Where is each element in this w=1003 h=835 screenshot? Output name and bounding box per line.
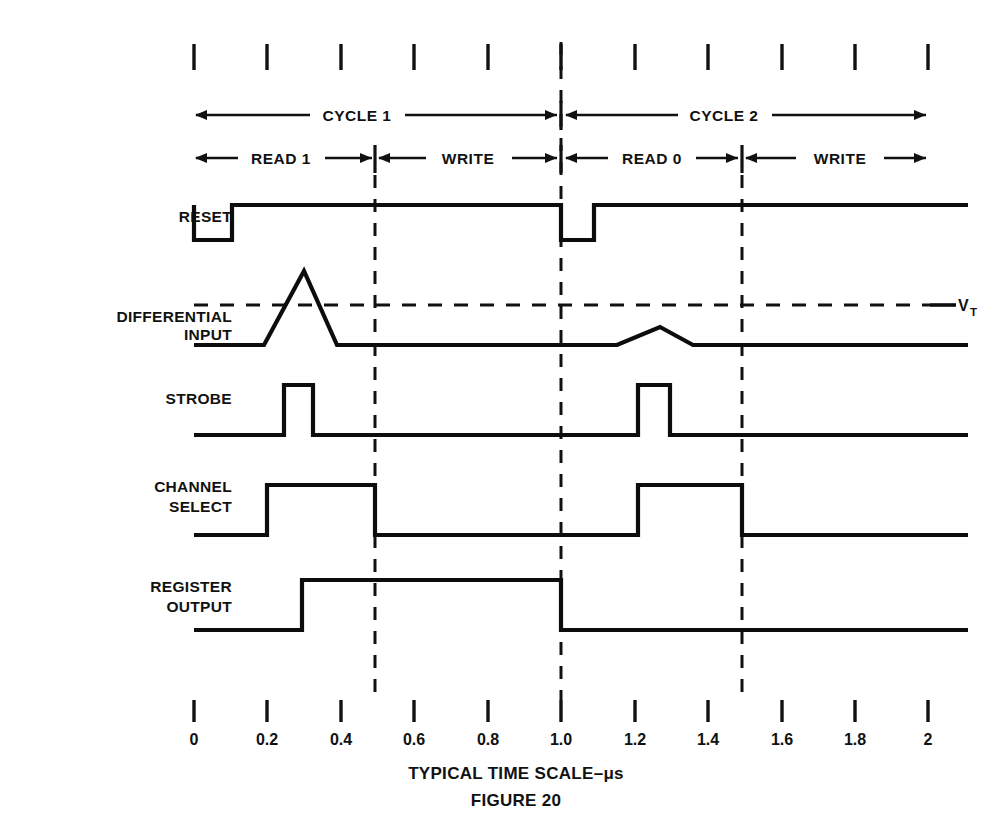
axis-tick-label-8: 1.6: [771, 731, 793, 748]
signal-label-output: OUTPUT: [166, 598, 232, 615]
axis-tick-label-1: 0.2: [256, 731, 278, 748]
phase-read-1-label: READ 1: [251, 150, 311, 167]
vertical-gridlines: [375, 42, 742, 700]
axis-tick-label-0: 0: [190, 731, 199, 748]
signal-label-channel: CHANNEL: [154, 478, 232, 495]
signal-label-reset: RESET: [179, 208, 232, 225]
timing-diagram-canvas: CYCLE 1 CYCLE 2 READ 1 WRITE READ 0: [0, 0, 1003, 835]
phase-write-2-label: WRITE: [814, 150, 866, 167]
cycle-1-label: CYCLE 1: [323, 107, 392, 124]
signal-label-differential: DIFFERENTIAL: [116, 308, 232, 325]
axis-tick-label-3: 0.6: [403, 731, 425, 748]
figure-caption: FIGURE 20: [471, 791, 562, 810]
phase-read-0-label: READ 0: [622, 150, 682, 167]
axis-title: TYPICAL TIME SCALE–μs: [408, 764, 624, 783]
signal-row-reset: RESET: [179, 205, 968, 240]
waveform-reset: [194, 205, 968, 240]
signal-row-differential-input: DIFFERENTIAL INPUT V T: [116, 271, 977, 345]
axis-tick-label-4: 0.8: [477, 731, 499, 748]
cycle-2-label: CYCLE 2: [690, 107, 759, 124]
axis-tick-label-7: 1.4: [697, 731, 719, 748]
axis-tick-label-5: 1.0: [550, 731, 572, 748]
axis-tick-label-10: 2: [924, 731, 933, 748]
waveform-strobe: [194, 385, 968, 435]
signal-label-register: REGISTER: [150, 578, 232, 595]
signal-label-input: INPUT: [184, 326, 232, 343]
axis-tick-labels: 0 0.2 0.4 0.6 0.8 1.0 1.2 1.4 1.6 1.8 2: [190, 731, 933, 748]
waveform-register-output: [194, 580, 968, 630]
axis-tick-marks: [194, 700, 928, 722]
signal-label-strobe: STROBE: [166, 390, 232, 407]
axis-tick-label-2: 0.4: [330, 731, 352, 748]
phase-write-1-label: WRITE: [442, 150, 494, 167]
signal-row-register-output: REGISTER OUTPUT: [150, 578, 968, 630]
axis-tick-label-9: 1.8: [844, 731, 866, 748]
waveform-channel-select: [194, 485, 968, 535]
vt-label: V: [958, 297, 969, 314]
timing-diagram-figure: CYCLE 1 CYCLE 2 READ 1 WRITE READ 0: [0, 0, 1003, 835]
vt-label-subscript: T: [970, 306, 977, 318]
axis-tick-label-6: 1.2: [624, 731, 646, 748]
signal-row-strobe: STROBE: [166, 385, 968, 435]
signal-label-select: SELECT: [169, 498, 232, 515]
waveform-differential-input: [194, 271, 968, 345]
